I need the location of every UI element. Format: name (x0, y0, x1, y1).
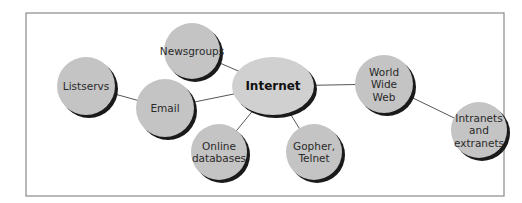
node-gopher-telnet: Gopher,Telnet (286, 124, 345, 183)
node-intranets-extranets: Intranetsandextranets (451, 102, 510, 161)
node-world-wide-web: WorldWideWeb (355, 55, 416, 116)
node-online-databases: Onlinedatabases (191, 124, 250, 183)
node-label: Web (373, 91, 396, 103)
node-email: Email (136, 79, 197, 140)
node-layer: InternetNewsgroupsListservsEmailOnlineda… (57, 23, 510, 183)
node-internet: Internet (232, 57, 317, 118)
node-label: and (469, 124, 489, 136)
node-label: Newsgroups (160, 45, 224, 57)
node-label: Online (202, 140, 236, 152)
node-label: Telnet (297, 152, 329, 164)
node-newsgroups: Newsgroups (160, 23, 224, 82)
internet-services-diagram: InternetNewsgroupsListservsEmailOnlineda… (0, 0, 522, 203)
node-listservs: Listservs (57, 57, 118, 118)
node-label: Internet (245, 79, 300, 93)
node-label: World (369, 66, 399, 78)
node-label: Gopher, (293, 140, 335, 152)
node-label: Wide (371, 78, 397, 90)
node-label: Email (150, 102, 179, 114)
node-label: Listservs (63, 80, 109, 92)
node-label: Intranets (455, 112, 502, 124)
node-label: extranets (454, 137, 504, 149)
node-label: databases (192, 152, 246, 164)
